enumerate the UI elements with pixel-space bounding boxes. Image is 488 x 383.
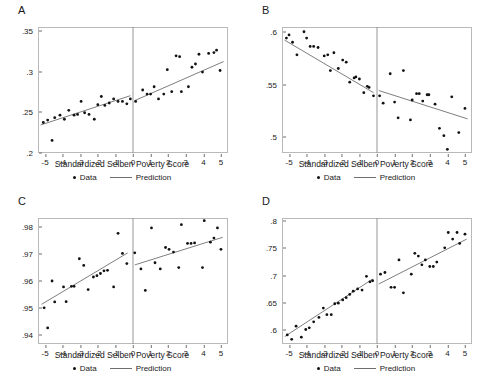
data-point: [177, 266, 180, 269]
data-point: [216, 227, 219, 230]
data-point: [133, 251, 136, 254]
data-point: [164, 246, 167, 249]
data-point: [46, 327, 49, 330]
data-point: [337, 67, 340, 70]
data-point: [103, 104, 106, 107]
data-point: [361, 289, 364, 292]
data-point: [295, 325, 298, 328]
data-point: [348, 81, 351, 84]
data-point: [352, 290, 355, 293]
plot-area-b: .5.55.6 -5-4-3-2-1012345: [282, 27, 472, 153]
data-point: [285, 37, 288, 40]
data-point: [409, 119, 412, 122]
data-point: [379, 273, 382, 276]
data-point-icon: [73, 176, 76, 179]
prediction-line-icon: [354, 177, 376, 178]
y-tick-label: .6: [270, 28, 282, 37]
data-point: [458, 242, 461, 245]
data-point: [207, 52, 210, 55]
data-point: [43, 306, 46, 309]
data-point: [427, 93, 430, 96]
legend-label-data: Data: [80, 364, 97, 373]
x-axis-label-d: Standardized Selben Poverty Score: [244, 350, 488, 360]
data-point: [73, 285, 76, 288]
data-point: [88, 113, 91, 116]
data-point: [450, 95, 453, 98]
scatter-layer-c: [38, 218, 228, 344]
data-point: [424, 259, 427, 262]
prediction-left-line: [285, 40, 374, 93]
data-point: [46, 119, 49, 122]
legend-label-data: Data: [324, 364, 341, 373]
data-point: [362, 91, 365, 94]
data-point: [96, 274, 99, 277]
data-point: [220, 248, 223, 251]
data-point: [150, 227, 153, 230]
data-point: [53, 301, 56, 304]
plot-area-a: .2.25.3.35 -5-4-3-2-1012345: [38, 27, 228, 153]
y-tick-label: .3: [26, 67, 38, 76]
legend-item-data: Data: [73, 364, 97, 373]
panel-label-c: C: [18, 195, 26, 207]
data-point: [398, 259, 401, 262]
data-point: [402, 291, 405, 294]
data-point: [365, 275, 368, 278]
data-point: [213, 51, 216, 54]
prediction-left-line: [41, 96, 131, 125]
data-point: [186, 242, 189, 245]
data-point: [358, 78, 361, 81]
data-point: [329, 69, 332, 72]
data-point: [180, 90, 183, 93]
data-point: [162, 93, 165, 96]
data-point: [194, 63, 197, 66]
data-point: [168, 248, 171, 251]
data-point: [178, 55, 181, 58]
data-point: [213, 237, 216, 240]
data-point: [457, 131, 460, 134]
data-point: [157, 98, 160, 101]
data-point: [333, 302, 336, 305]
data-point: [108, 102, 111, 105]
data-point: [446, 148, 449, 151]
data-point: [304, 328, 307, 331]
prediction-line-icon: [110, 177, 132, 178]
data-point: [434, 103, 437, 106]
data-point: [209, 241, 212, 244]
data-point: [308, 326, 311, 329]
plot-area-d: .6.65.7.75.8 -5-4-3-2-1012345: [282, 218, 472, 344]
x-axis-label-a: Standardized Selben Poverty Score: [0, 159, 244, 169]
data-point: [78, 257, 81, 260]
data-point: [198, 53, 201, 56]
data-point: [393, 101, 396, 104]
data-point: [456, 231, 459, 234]
data-point: [464, 233, 467, 236]
data-point: [175, 54, 178, 57]
data-point: [63, 118, 66, 121]
data-point: [348, 293, 351, 296]
data-point: [305, 37, 308, 40]
data-point: [317, 46, 320, 49]
data-point: [170, 90, 173, 93]
data-point: [215, 49, 218, 52]
data-point: [417, 255, 420, 258]
scatter-layer-a: [38, 27, 228, 153]
data-point: [67, 109, 70, 112]
data-point: [312, 45, 315, 48]
data-point: [415, 92, 418, 95]
data-point: [93, 118, 96, 121]
legend-label-data: Data: [324, 173, 341, 182]
data-point: [368, 86, 371, 89]
scatter-layer-b: [282, 27, 472, 153]
data-point: [402, 69, 405, 72]
legend-item-prediction: Prediction: [354, 173, 416, 182]
regression-discontinuity-figure: A .2.25.3.35 -5-4-3-2-1012345 Standardiz…: [0, 0, 488, 383]
data-point: [219, 69, 222, 72]
y-tick-label: .6: [270, 326, 282, 335]
y-tick-label: .65: [266, 298, 282, 307]
data-point: [62, 285, 65, 288]
data-point: [92, 276, 95, 279]
data-point: [286, 334, 289, 337]
data-point: [443, 246, 446, 249]
data-point: [65, 300, 68, 303]
data-point: [345, 296, 348, 299]
